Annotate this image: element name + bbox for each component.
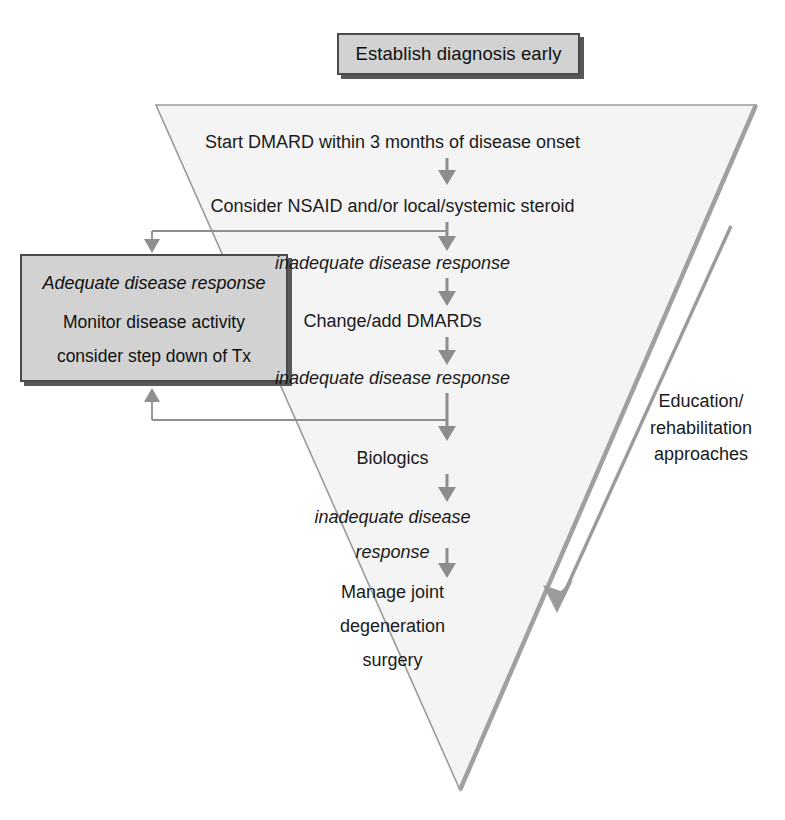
education-note-line3: approaches [631, 441, 771, 468]
flow-step-change-add-dmards: Change/add DMARDs [0, 312, 785, 330]
education-rehabilitation-note: Education/ rehabilitation approaches [631, 388, 771, 468]
adequate-response-heading: Adequate disease response [42, 274, 265, 292]
flow-step-manage-joint-line3: surgery [0, 651, 785, 669]
education-note-line2: rehabilitation [631, 415, 771, 442]
flow-step-manage-joint-line2: degeneration [0, 617, 785, 635]
flow-step-consider-nsaid: Consider NSAID and/or local/systemic ste… [0, 197, 785, 215]
flow-step-manage-joint-line1: Manage joint [0, 583, 785, 601]
establish-diagnosis-label: Establish diagnosis early [355, 43, 561, 65]
consider-step-down-label: consider step down of Tx [57, 348, 251, 366]
flow-step-inadequate-response-2: inadequate disease response [0, 369, 785, 387]
flow-step-start-dmard: Start DMARD within 3 months of disease o… [0, 133, 785, 151]
flow-step-inadequate-response-3-line2: response [0, 543, 785, 561]
education-note-line1: Education/ [631, 388, 771, 415]
establish-diagnosis-box: Establish diagnosis early [337, 33, 580, 75]
flow-step-inadequate-response-3-line1: inadequate disease [0, 508, 785, 526]
flow-step-inadequate-response-1: inadequate disease response [0, 254, 785, 272]
diagram-canvas: Establish diagnosis early Adequate disea… [0, 0, 785, 820]
